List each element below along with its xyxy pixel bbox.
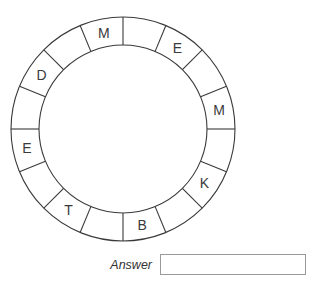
segment-divider bbox=[155, 26, 166, 52]
answer-label: Answer bbox=[108, 256, 152, 274]
segment-divider bbox=[20, 161, 46, 172]
segment-divider bbox=[155, 207, 166, 233]
segment-divider bbox=[182, 50, 202, 70]
segment-divider bbox=[44, 188, 64, 208]
ring-segment-letter: T bbox=[64, 202, 73, 218]
ring-segment-letter: E bbox=[173, 40, 182, 56]
segment-divider bbox=[80, 207, 91, 233]
ring-segment-letter: M bbox=[98, 25, 110, 41]
letter-ring: EMKBTEDM bbox=[0, 0, 309, 283]
ring-segment-letter: K bbox=[200, 175, 210, 191]
ring-segment-letter: B bbox=[137, 217, 146, 233]
segment-divider bbox=[44, 50, 64, 70]
ring-segment-letter: D bbox=[36, 67, 46, 83]
answer-input[interactable] bbox=[160, 254, 306, 275]
inner-circle bbox=[39, 45, 207, 213]
segment-divider bbox=[201, 86, 227, 97]
ring-outline bbox=[11, 17, 235, 241]
ring-segment-letter: E bbox=[22, 140, 31, 156]
segment-divider bbox=[201, 161, 227, 172]
segment-divider bbox=[20, 86, 46, 97]
ring-segment-letter: M bbox=[213, 102, 225, 118]
segment-divider bbox=[80, 26, 91, 52]
ring-labels: EMKBTEDM bbox=[22, 25, 225, 233]
